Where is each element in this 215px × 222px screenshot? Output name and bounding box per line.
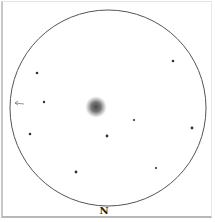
- star: [155, 167, 157, 169]
- stars-group: [29, 60, 194, 174]
- star: [36, 72, 39, 75]
- north-label: N: [97, 205, 111, 216]
- arrow-left-icon: [15, 101, 24, 105]
- eyepiece-field: [0, 0, 215, 222]
- star: [29, 133, 32, 136]
- star: [75, 171, 78, 174]
- nebula-object: [85, 96, 107, 118]
- field-of-view-circle: [10, 10, 206, 206]
- star: [43, 101, 45, 103]
- star: [172, 60, 175, 63]
- star: [191, 127, 194, 130]
- star: [133, 119, 135, 121]
- star: [106, 135, 109, 138]
